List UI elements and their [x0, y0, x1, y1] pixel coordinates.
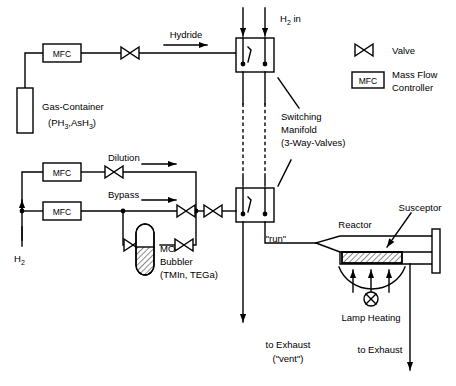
valve-dilution-icon: [105, 166, 123, 178]
switching-manifold-upper: [236, 38, 274, 72]
susceptor-label: Susceptor: [399, 202, 442, 213]
manifold-upper-port-left: [241, 62, 246, 67]
gas-container-label-line1: Gas-Container: [42, 101, 104, 112]
legend-mfc-label-line2: Controller: [392, 82, 433, 93]
leader-susceptor: [387, 213, 411, 247]
reactor-label: Reactor: [338, 219, 371, 230]
run-label: "run": [266, 233, 286, 244]
leader-upper-manifold: [278, 78, 299, 108]
hydride-label: Hydride: [170, 29, 203, 40]
legend: Valve MFC Mass Flow Controller: [352, 44, 438, 93]
legend-mfc-label-line1: Mass Flow: [392, 69, 438, 80]
dilution-label: Dilution: [108, 152, 140, 163]
mo-bubbler-label-line3: (TMIn, TEGa): [160, 269, 218, 280]
mfc-dilution-label: MFC: [53, 168, 71, 178]
manifold-upper-port-right: [263, 62, 268, 67]
vent-exhaust-label-line2: ("vent"): [272, 353, 303, 364]
reactor-end-flange: [432, 229, 440, 273]
mo-bubbler-label-line2: Bubbler: [160, 256, 193, 267]
manifold-lower-port-right: [263, 212, 268, 217]
mfc-hydride-label: MFC: [53, 49, 71, 59]
junction-bypass-bubbler: [121, 209, 126, 214]
switching-manifold-label-line2: Manifold: [281, 124, 317, 135]
h2-in-feeds: [243, 8, 265, 36]
mfc-bypass-label: MFC: [53, 207, 71, 217]
gas-container: [17, 88, 33, 133]
susceptor: [342, 252, 402, 263]
switching-manifold-lower: [236, 188, 274, 222]
valve-mo-line-icon: [204, 205, 222, 217]
reactor-exhaust-label: to Exhaust: [358, 344, 403, 355]
process-flow-diagram: MFC MFC MFC Hydride H2 in Gas-Container …: [0, 0, 456, 386]
h2-in-label: H2 in: [280, 13, 301, 26]
leader-lower-manifold: [278, 160, 291, 186]
switching-manifold-label-line3: (3-Way-Valves): [281, 137, 345, 148]
mo-bubbler-label-line1: MO-: [160, 243, 178, 254]
mfc-legend-label: MFC: [359, 76, 377, 86]
h2-inlet-label: H2: [14, 253, 25, 266]
mo-bubbler: [136, 224, 154, 275]
manifold-riser-lines: [243, 72, 265, 186]
vent-exhaust-label-line1: to Exhaust: [266, 339, 311, 350]
valve-hydride-icon: [121, 47, 139, 59]
valve-legend-icon: [355, 44, 373, 56]
lamp-reflector: [339, 267, 405, 289]
manifold-lower-port-left: [241, 212, 246, 217]
diagram-canvas: MFC MFC MFC Hydride H2 in Gas-Container …: [0, 0, 456, 386]
junction-h2-split: [20, 209, 25, 214]
lamp-heating-label: Lamp Heating: [341, 312, 400, 323]
gas-container-label-line2: (PH3,AsH3): [48, 117, 96, 130]
bypass-label: Bypass: [108, 189, 139, 200]
valve-bypass-icon: [177, 205, 195, 217]
switching-manifold-label-line1: Switching: [281, 111, 322, 122]
legend-valve-label: Valve: [392, 45, 415, 56]
